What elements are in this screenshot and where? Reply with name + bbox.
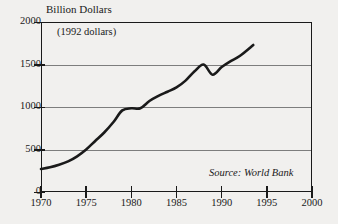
y-tick-1000: 1000 — [0, 101, 41, 113]
y-tick-mark — [34, 107, 45, 109]
x-tick-label-1985: 1985 — [155, 198, 199, 209]
y-tick-1500: 1500 — [0, 59, 41, 71]
y-tick-mark — [34, 22, 45, 24]
y-tick-2000: 2000 — [0, 16, 41, 28]
x-tick-label-1975: 1975 — [64, 198, 108, 209]
y-axis-title: Billion Dollars — [46, 3, 112, 15]
x-tick-label-1995: 1995 — [245, 198, 289, 209]
chart-canvas: Billion Dollars (1992 dollars) 050010001… — [0, 0, 338, 224]
source-note: Source: World Bank — [209, 167, 293, 178]
x-tick-label-1980: 1980 — [109, 198, 153, 209]
x-tick-label-1970: 1970 — [19, 198, 63, 209]
y-tick-mark — [34, 64, 45, 66]
x-tick-label-2000: 2000 — [290, 198, 334, 209]
x-tick-label-1990: 1990 — [200, 198, 244, 209]
y-tick-mark — [34, 149, 45, 151]
y-tick-500: 500 — [0, 144, 41, 156]
